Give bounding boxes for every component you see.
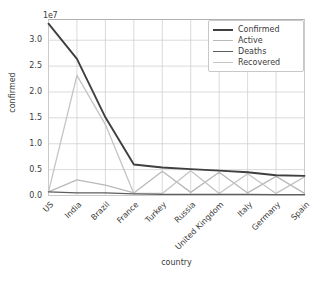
legend-item: Confirmed [213, 24, 299, 35]
y-tick-label: 0.5 [18, 165, 42, 174]
legend-swatch-line-icon [213, 62, 233, 63]
y-tick-label: 0.0 [18, 191, 42, 200]
y-tick-label: 1.0 [18, 139, 42, 148]
y-tick-label: 2.5 [18, 61, 42, 70]
y-axis-offset-label: 1e7 [43, 11, 58, 20]
legend-label: Recovered [238, 57, 280, 68]
y-tick-label: 2.0 [18, 87, 42, 96]
legend-item: Active [213, 35, 299, 46]
y-tick-label: 3.0 [18, 35, 42, 44]
legend-swatch-line-icon [213, 51, 233, 52]
legend-label: Confirmed [238, 24, 280, 35]
y-axis-title: confirmed [8, 53, 17, 133]
legend-item: Recovered [213, 57, 299, 68]
legend-swatch-line-icon [213, 29, 233, 31]
legend-item: Deaths [213, 46, 299, 57]
y-tick-label: 1.5 [18, 113, 42, 122]
chart-legend: ConfirmedActiveDeathsRecovered [208, 20, 304, 72]
legend-label: Active [238, 35, 263, 46]
legend-label: Deaths [238, 46, 266, 57]
chart-figure: 1e7 confirmed country 0.00.51.01.52.02.5… [0, 0, 321, 283]
legend-swatch-line-icon [213, 40, 233, 41]
